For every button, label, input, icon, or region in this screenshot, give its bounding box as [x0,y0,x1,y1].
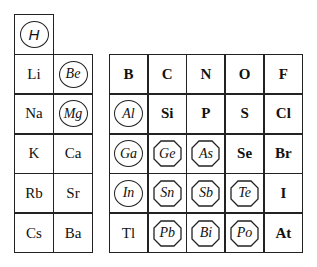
element-cell-f: F [264,54,303,94]
element-symbol: Ga [120,146,137,162]
element-cell-at: At [264,213,303,253]
element-symbol: S [240,105,248,122]
element-symbol: Ge [159,146,175,162]
circle-marker-icon: Mg [59,100,88,127]
element-cell-mg: Mg [53,94,93,134]
element-symbol: Po [237,225,253,241]
element-symbol: At [275,225,291,242]
element-symbol: N [200,66,211,83]
element-symbol: B [123,66,133,83]
element-cell-na: Na [14,94,54,134]
element-cell-as: As [186,134,225,174]
element-cell-tl: Tl [109,213,148,253]
element-cell-be: Be [53,54,93,94]
element-symbol: As [199,146,213,162]
circle-marker-icon: In [114,180,143,207]
element-cell-ca: Ca [53,134,93,174]
element-symbol: Si [161,105,174,122]
element-cell-sr: Sr [53,173,93,213]
element-symbol: P [201,105,210,122]
element-cell-bi: Bi [186,213,225,253]
element-symbol: Mg [64,106,83,122]
octagon-marker-icon: Po [230,220,259,247]
element-symbol: Sn [160,185,174,201]
element-cell-k: K [14,134,54,174]
element-cell-c: C [148,54,187,94]
element-cell-li: Li [14,54,54,94]
element-cell-cl: Cl [264,94,303,134]
octagon-marker-icon: Ge [153,140,182,167]
element-symbol: O [239,66,251,83]
octagon-marker-icon: Pb [153,220,182,247]
element-symbol: Sr [66,185,79,202]
element-symbol: Cl [276,105,291,122]
element-cell-n: N [186,54,225,94]
element-symbol: Te [238,185,251,201]
element-symbol: H [29,26,40,43]
element-cell-b: B [109,54,148,94]
element-symbol: K [29,145,40,162]
element-symbol: Cs [26,225,42,242]
octagon-marker-icon: Sb [191,180,220,207]
element-symbol: In [123,185,135,201]
element-cell-p: P [186,94,225,134]
element-symbol: Na [25,105,43,122]
element-symbol: Se [237,145,252,162]
circle-marker-icon: H [20,21,49,48]
element-cell-se: Se [225,134,264,174]
element-symbol: Rb [25,185,43,202]
octagon-marker-icon: Te [230,180,259,207]
element-cell-h: H [14,14,54,55]
element-symbol: Ca [65,145,82,162]
element-cell-i: I [264,173,303,213]
element-symbol: Be [66,66,81,82]
element-symbol: Al [122,106,134,122]
element-cell-br: Br [264,134,303,174]
element-cell-o: O [225,54,264,94]
element-symbol: Ba [65,225,82,242]
element-cell-ga: Ga [109,134,148,174]
element-cell-ba: Ba [53,213,93,253]
element-symbol: F [279,66,288,83]
element-symbol: Br [275,145,292,162]
element-cell-pb: Pb [148,213,187,253]
element-cell-sn: Sn [148,173,187,213]
element-symbol: Bi [200,225,212,241]
element-symbol: Sb [199,185,213,201]
element-cell-rb: Rb [14,173,54,213]
element-cell-ge: Ge [148,134,187,174]
octagon-marker-icon: As [191,140,220,167]
circle-marker-icon: Al [114,100,143,127]
element-symbol: I [280,185,286,202]
element-cell-sb: Sb [186,173,225,213]
element-cell-po: Po [225,213,264,253]
octagon-marker-icon: Bi [191,220,220,247]
element-cell-in: In [109,173,148,213]
element-cell-te: Te [225,173,264,213]
element-cell-si: Si [148,94,187,134]
circle-marker-icon: Ga [114,140,143,167]
element-cell-al: Al [109,94,148,134]
element-symbol: Li [27,66,40,83]
element-symbol: Pb [159,225,175,241]
element-cell-cs: Cs [14,213,54,253]
element-symbol: Tl [122,225,135,242]
octagon-marker-icon: Sn [153,180,182,207]
circle-marker-icon: Be [59,61,88,88]
element-cell-s: S [225,94,264,134]
element-symbol: C [162,66,173,83]
